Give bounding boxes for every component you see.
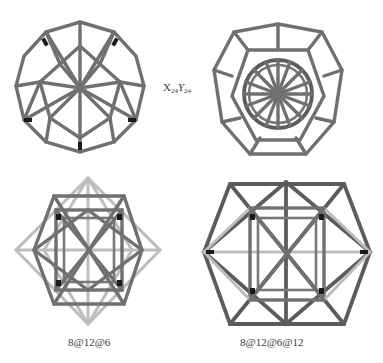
framework-top-right	[210, 22, 350, 162]
label-bottom-right: 8@12@6@12	[240, 336, 303, 348]
label-top: X24Y24	[163, 81, 191, 95]
label-top-y-sub: 24	[184, 87, 191, 95]
polyhedron-figure	[10, 18, 150, 158]
label-bottom-left: 8@12@6	[68, 336, 110, 348]
polyhedron-figure	[14, 176, 164, 326]
label-top-x-sub: 24	[171, 87, 178, 95]
framework-top-left	[10, 18, 150, 158]
polyhedron-figure	[198, 178, 374, 328]
framework-bottom-right	[198, 178, 374, 328]
framework-bottom-left	[14, 176, 164, 326]
polyhedron-figure	[210, 22, 350, 162]
label-top-x: X	[163, 81, 171, 93]
